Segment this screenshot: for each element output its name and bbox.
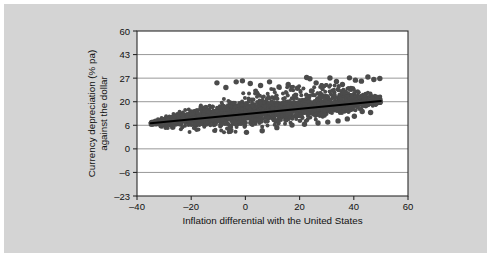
scatter-point [308, 116, 312, 120]
scatter-point [247, 92, 251, 96]
scatter-point [327, 85, 331, 89]
scatter-point [220, 101, 224, 105]
scatter-point [292, 100, 296, 104]
scatter-point [235, 116, 239, 120]
scatter-point [322, 109, 326, 113]
scatter-point [257, 118, 261, 122]
scatter-point [233, 105, 237, 109]
scatter-point [192, 126, 196, 130]
scatter-point [262, 100, 266, 104]
scatter-point-outlier [223, 85, 228, 90]
scatter-point-outlier [341, 90, 346, 95]
scatter-point [332, 93, 336, 97]
scatter-point-outlier [345, 116, 350, 121]
scatter-point [280, 113, 284, 117]
scatter-point [337, 85, 341, 89]
scatter-point-outlier [371, 77, 376, 82]
x-tick-label: 40 [349, 201, 360, 212]
scatter-point-outlier [325, 119, 330, 124]
scatter-point-outlier [360, 109, 365, 114]
scatter-point-outlier [258, 83, 263, 88]
scatter-point [255, 95, 259, 99]
scatter-point-outlier [286, 82, 291, 87]
scatter-point [274, 103, 278, 107]
scatter-point [352, 88, 356, 92]
scatter-point [266, 95, 270, 99]
scatter-point [301, 86, 305, 90]
scatter-point [295, 112, 299, 116]
y-axis-title-line-2: against the dollar [98, 75, 109, 150]
scatter-point [211, 118, 215, 122]
scatter-point [304, 93, 308, 97]
scatter-point [344, 98, 348, 102]
scatter-point [347, 97, 351, 101]
scatter-point [221, 118, 225, 122]
scatter-point [245, 105, 249, 109]
scatter-point [269, 87, 273, 91]
scatter-point [290, 117, 294, 121]
scatter-point [231, 108, 235, 112]
y-tick-label: 43 [119, 49, 130, 60]
scatter-point [339, 97, 343, 101]
scatter-point [172, 124, 176, 128]
scatter-point [273, 118, 277, 122]
scatter-point-outlier [248, 81, 253, 86]
scatter-point [295, 96, 299, 100]
scatter-point [288, 99, 292, 103]
scatter-point [313, 93, 317, 97]
scatter-point [307, 112, 311, 116]
y-tick-label: 20 [119, 96, 130, 107]
scatter-point [205, 120, 209, 124]
scatter-point [313, 108, 317, 112]
scatter-point [241, 91, 245, 95]
scatter-point [222, 97, 226, 101]
scatter-point [206, 110, 210, 114]
scatter-point [234, 130, 238, 134]
scatter-point-outlier [289, 122, 294, 127]
scatter-point [240, 103, 244, 107]
scatter-point-outlier [267, 79, 272, 84]
scatter-point-outlier [334, 79, 339, 84]
scatter-point [308, 94, 312, 98]
scatter-point [199, 104, 203, 108]
scatter-point [270, 113, 274, 117]
scatter-point-outlier [233, 79, 238, 84]
scatter-point [187, 123, 191, 127]
scatter-point [243, 96, 247, 100]
scatter-point [303, 110, 307, 114]
scatter-point-outlier [315, 120, 320, 125]
scatter-point [321, 102, 325, 106]
scatter-point-outlier [260, 128, 265, 133]
scatter-point [299, 93, 303, 97]
scatter-point [251, 123, 255, 127]
scatter-point-outlier [365, 74, 370, 79]
scatter-point [178, 122, 182, 126]
y-axis-title-line-1: Currency depreciation (% pa) [86, 50, 97, 177]
scatter-point [213, 129, 217, 133]
scatter-point-outlier [359, 78, 364, 83]
scatter-point-outlier [227, 127, 232, 132]
scatter-point [243, 117, 247, 121]
scatter-point-outlier [335, 118, 340, 123]
scatter-point-outlier [274, 125, 279, 130]
scatter-point-outlier [307, 76, 312, 81]
scatter-point-outlier [309, 88, 314, 93]
scatter-point [187, 108, 191, 112]
scatter-point [271, 106, 275, 110]
scatter-point-outlier [340, 82, 345, 87]
scatter-point [255, 91, 259, 95]
x-tick-label: –20 [183, 201, 199, 212]
scatter-point-outlier [320, 84, 325, 89]
scatter-point [180, 113, 184, 117]
scatter-point-outlier [347, 75, 352, 80]
scatter-point [287, 111, 291, 115]
scatter-point-outlier [368, 110, 373, 115]
scatter-point [267, 101, 271, 105]
x-tick-label: 0 [243, 201, 248, 212]
figure-panel: –40–200204060 –23–60620274360 Inflation … [4, 4, 487, 253]
y-axis-tick-labels: –23–60620274360 [114, 26, 130, 202]
scatter-point [255, 100, 259, 104]
scatter-point-outlier [302, 122, 307, 127]
scatter-point [370, 96, 374, 100]
scatter-point-outlier [353, 77, 358, 82]
